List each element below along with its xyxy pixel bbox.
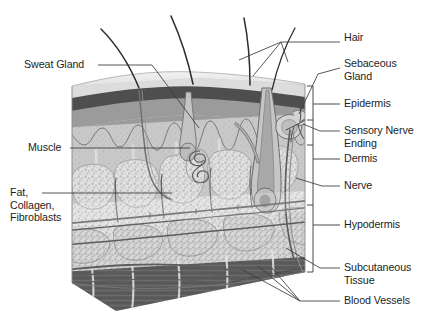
label-sweat-gland: Sweat Gland: [24, 58, 84, 71]
label-hair: Hair: [344, 31, 363, 44]
label-dermis: Dermis: [344, 152, 377, 165]
label-fat-collagen-fibroblasts: Fat, Collagen, Fibroblasts: [10, 186, 61, 224]
label-nerve: Nerve: [344, 179, 372, 192]
label-muscle: Muscle: [28, 141, 61, 154]
label-epidermis: Epidermis: [344, 97, 391, 110]
label-sensory-nerve-ending: Sensory Nerve Ending: [344, 124, 414, 149]
layer-bracket: [307, 86, 340, 272]
label-sebaceous-gland: Sebaceous Gland: [344, 57, 397, 82]
skin-cross-section-figure: Hair Sebaceous Gland Epidermis Sensory N…: [0, 0, 427, 329]
label-subcutaneous-tissue: Subcutaneous Tissue: [344, 261, 411, 286]
label-hypodermis: Hypodermis: [344, 218, 400, 231]
label-blood-vessels: Blood Vessels: [344, 294, 410, 307]
